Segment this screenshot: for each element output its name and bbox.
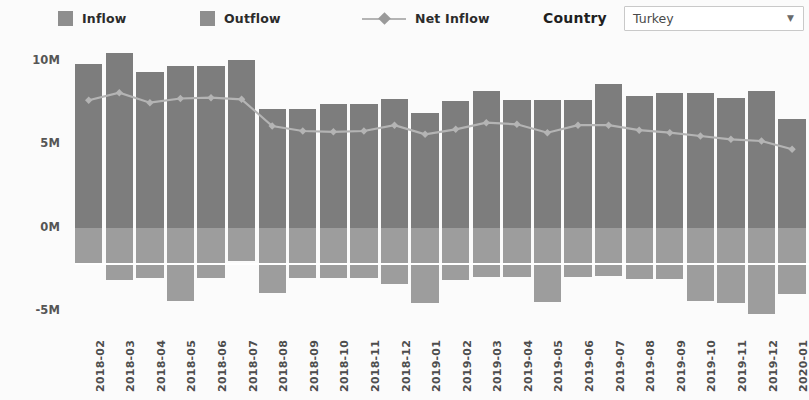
- bar-column[interactable]: [656, 36, 683, 336]
- line-marker-icon: [362, 11, 406, 26]
- x-axis-tick: 2018-09: [308, 340, 321, 392]
- bar-column[interactable]: [534, 36, 561, 336]
- x-axis-tick: 2019-05: [552, 340, 565, 392]
- outflow-bar[interactable]: [748, 228, 775, 315]
- country-select[interactable]: Turkey ▼: [624, 6, 804, 31]
- outflow-bar[interactable]: [350, 228, 377, 278]
- bar-column[interactable]: [411, 36, 438, 336]
- inflow-bar[interactable]: [197, 66, 224, 228]
- chart-toolbar: Inflow Outflow Net Inflow Country Turkey…: [0, 0, 809, 36]
- legend-item-inflow[interactable]: Inflow: [58, 0, 127, 36]
- inflow-bar[interactable]: [167, 66, 194, 228]
- inflow-bar[interactable]: [228, 60, 255, 228]
- bar-column[interactable]: [259, 36, 286, 336]
- outflow-bar[interactable]: [656, 228, 683, 280]
- country-select-value: Turkey: [625, 11, 787, 26]
- outflow-bar[interactable]: [381, 228, 408, 285]
- outflow-bar[interactable]: [106, 228, 133, 281]
- outflow-bar[interactable]: [75, 228, 102, 263]
- inflow-bar[interactable]: [778, 119, 805, 227]
- inflow-bar[interactable]: [350, 104, 377, 228]
- outflow-bar[interactable]: [626, 228, 653, 280]
- outflow-bar[interactable]: [228, 228, 255, 261]
- legend-item-outflow[interactable]: Outflow: [200, 0, 281, 36]
- outflow-bar[interactable]: [473, 228, 500, 277]
- x-axis-tick: 2019-09: [675, 340, 688, 392]
- y-axis-tick: -5M: [12, 303, 60, 317]
- y-axis-tick: 10M: [12, 53, 60, 67]
- outflow-bar[interactable]: [442, 228, 469, 281]
- bar-column[interactable]: [687, 36, 714, 336]
- bar-column[interactable]: [473, 36, 500, 336]
- x-axis: 2018-022018-032018-042018-052018-062018-…: [75, 336, 809, 400]
- legend-item-net-inflow[interactable]: Net Inflow: [362, 0, 490, 36]
- country-filter-label: Country: [543, 0, 607, 36]
- zero-baseline: [75, 263, 809, 265]
- outflow-bar[interactable]: [534, 228, 561, 302]
- outflow-bar[interactable]: [778, 228, 805, 295]
- inflow-bar[interactable]: [106, 53, 133, 228]
- bar-column[interactable]: [626, 36, 653, 336]
- x-axis-tick: 2018-08: [277, 340, 290, 392]
- outflow-bar[interactable]: [197, 228, 224, 278]
- bar-column[interactable]: [228, 36, 255, 336]
- inflow-bar[interactable]: [289, 109, 316, 227]
- square-swatch-icon: [58, 11, 73, 26]
- x-axis-tick: 2018-02: [94, 340, 107, 392]
- bar-series-container: [75, 36, 809, 336]
- outflow-bar[interactable]: [411, 228, 438, 304]
- outflow-bar[interactable]: [259, 228, 286, 294]
- inflow-bar[interactable]: [717, 98, 744, 228]
- bar-column[interactable]: [289, 36, 316, 336]
- x-axis-tick: 2019-03: [491, 340, 504, 392]
- bar-column[interactable]: [748, 36, 775, 336]
- bar-column[interactable]: [595, 36, 622, 336]
- bar-column[interactable]: [197, 36, 224, 336]
- bar-column[interactable]: [442, 36, 469, 336]
- x-axis-tick: 2018-06: [216, 340, 229, 392]
- outflow-bar[interactable]: [595, 228, 622, 276]
- bar-column[interactable]: [778, 36, 805, 336]
- x-axis-tick: 2020-01: [797, 340, 809, 392]
- inflow-bar[interactable]: [136, 72, 163, 228]
- inflow-bar[interactable]: [656, 93, 683, 228]
- x-axis-tick: 2019-11: [736, 340, 749, 392]
- x-axis-tick: 2018-10: [338, 340, 351, 392]
- outflow-bar[interactable]: [564, 228, 591, 277]
- inflow-bar[interactable]: [595, 84, 622, 228]
- bar-column[interactable]: [106, 36, 133, 336]
- inflow-bar[interactable]: [503, 100, 530, 228]
- chevron-down-icon: ▼: [787, 14, 803, 23]
- outflow-bar[interactable]: [289, 228, 316, 279]
- inflow-bar[interactable]: [75, 64, 102, 228]
- bar-column[interactable]: [320, 36, 347, 336]
- inflow-bar[interactable]: [748, 91, 775, 228]
- outflow-bar[interactable]: [717, 228, 744, 303]
- inflow-bar[interactable]: [626, 96, 653, 228]
- bar-column[interactable]: [350, 36, 377, 336]
- x-axis-tick: 2018-07: [247, 340, 260, 392]
- bar-column[interactable]: [717, 36, 744, 336]
- outflow-bar[interactable]: [503, 228, 530, 277]
- bar-column[interactable]: [136, 36, 163, 336]
- bar-column[interactable]: [503, 36, 530, 336]
- y-axis-tick: 0M: [12, 220, 60, 234]
- inflow-bar[interactable]: [320, 104, 347, 228]
- outflow-bar[interactable]: [136, 228, 163, 279]
- inflow-bar[interactable]: [564, 100, 591, 228]
- bar-column[interactable]: [381, 36, 408, 336]
- inflow-bar[interactable]: [442, 101, 469, 228]
- bar-column[interactable]: [75, 36, 102, 336]
- inflow-bar[interactable]: [381, 99, 408, 228]
- inflow-bar[interactable]: [411, 113, 438, 228]
- inflow-bar[interactable]: [473, 91, 500, 228]
- inflow-bar[interactable]: [534, 100, 561, 228]
- inflow-bar[interactable]: [687, 93, 714, 228]
- outflow-bar[interactable]: [320, 228, 347, 279]
- x-axis-tick: 2019-10: [705, 340, 718, 392]
- legend-label-net-inflow: Net Inflow: [415, 11, 490, 26]
- bar-column[interactable]: [167, 36, 194, 336]
- bar-column[interactable]: [564, 36, 591, 336]
- inflow-bar[interactable]: [259, 109, 286, 228]
- legend-label-inflow: Inflow: [82, 11, 127, 26]
